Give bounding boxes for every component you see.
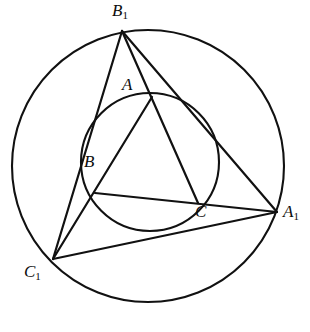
label-B1-base: B [112, 1, 122, 20]
label-A1-sub: 1 [293, 210, 299, 222]
label-A-base: A [122, 75, 132, 94]
side-B1-A1 [122, 31, 277, 212]
label-B-base: B [84, 152, 94, 171]
label-C1: C1 [24, 263, 41, 280]
cevian-A1-B [95, 193, 277, 212]
side-C1-A1 [53, 212, 277, 259]
label-A: A [122, 76, 132, 93]
label-C: C [195, 203, 206, 220]
label-B1-sub: 1 [122, 9, 128, 21]
cevian-B1-C [122, 31, 198, 203]
geometry-figure: B1 A B C A1 C1 [0, 0, 310, 332]
cevian-C1-A [53, 97, 152, 259]
label-B1: B1 [112, 2, 128, 19]
label-C1-sub: 1 [35, 270, 41, 282]
label-A1: A1 [283, 203, 299, 220]
side-B1-C1 [53, 31, 122, 259]
circumcircle [12, 30, 284, 302]
geometry-canvas [0, 0, 310, 332]
label-B: B [84, 153, 94, 170]
label-A1-base: A [283, 202, 293, 221]
label-C-base: C [195, 202, 206, 221]
label-C1-base: C [24, 262, 35, 281]
